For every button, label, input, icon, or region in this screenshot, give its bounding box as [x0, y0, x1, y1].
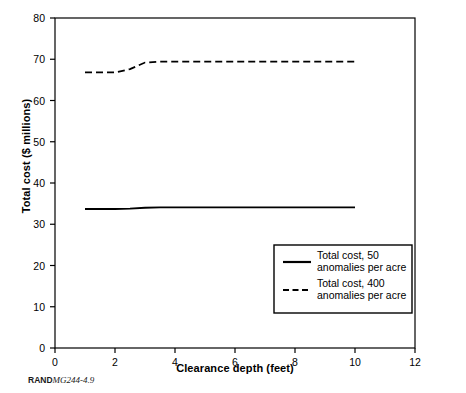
legend-label-2-line1: Total cost, 400 — [317, 277, 385, 289]
x-axis-label: Clearance depth (feet) — [55, 362, 415, 374]
y-tick-label: 50 — [33, 136, 45, 148]
legend-label-1-line2: anomalies per acre — [317, 261, 406, 273]
credit-org: RAND — [28, 375, 53, 385]
y-axis-label: Total cost ($ millions) — [20, 86, 32, 226]
legend-label-2-line2: anomalies per acre — [317, 289, 406, 301]
y-tick-label: 10 — [33, 301, 45, 313]
x-axis-ticks — [55, 348, 415, 353]
y-tick-label: 60 — [33, 95, 45, 107]
y-tick-label: 70 — [33, 53, 45, 65]
figure-credit: RANDMG244-4.9 — [28, 375, 94, 385]
y-tick-label: 20 — [33, 260, 45, 272]
chart-legend: Total cost, 50 anomalies per acre Total … — [274, 245, 412, 313]
y-tick-label: 0 — [39, 342, 45, 354]
chart-plot-area: 0 10 20 30 40 50 60 70 80 0 2 4 6 8 — [0, 0, 466, 393]
credit-figure-number: MG244-4.9 — [53, 375, 95, 385]
y-tick-label: 80 — [33, 12, 45, 24]
chart-figure: 0 10 20 30 40 50 60 70 80 0 2 4 6 8 — [0, 0, 466, 393]
legend-label-1-line1: Total cost, 50 — [317, 249, 379, 261]
y-tick-label: 30 — [33, 218, 45, 230]
y-axis-ticks — [50, 18, 55, 348]
y-tick-label: 40 — [33, 177, 45, 189]
y-tick-labels: 0 10 20 30 40 50 60 70 80 — [33, 12, 45, 354]
